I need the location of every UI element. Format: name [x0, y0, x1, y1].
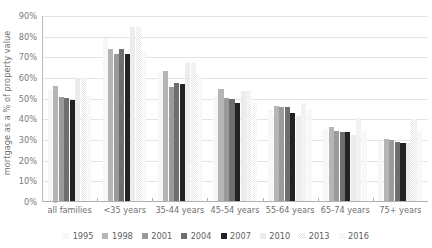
bar [191, 63, 196, 201]
legend-label: 2013 [309, 231, 330, 241]
y-axis-tick-label: 90% [19, 11, 37, 21]
y-axis-tick-label: 30% [19, 135, 37, 145]
bar [389, 140, 394, 201]
bar [384, 139, 389, 201]
legend-item[interactable]: 2007 [221, 231, 251, 241]
y-axis-tick-label: 10% [19, 176, 37, 186]
bar [406, 143, 411, 201]
bar [59, 97, 64, 201]
legend-swatch [142, 233, 148, 239]
bar [119, 49, 124, 201]
x-axis-tick-mark [318, 198, 319, 202]
bar-group [97, 16, 152, 201]
y-axis-tick-label: 70% [19, 52, 37, 62]
bar [125, 54, 130, 201]
legend-swatch [181, 233, 187, 239]
bar-group [207, 16, 262, 201]
legend-swatch [221, 233, 227, 239]
legend-item[interactable]: 1998 [102, 231, 132, 241]
y-axis-tick-label: 40% [19, 114, 37, 124]
legend-label: 1998 [112, 231, 133, 241]
bar-chart: mortgage as a % of property value 0%10%2… [0, 0, 432, 248]
legend-swatch [63, 233, 69, 239]
legend-item[interactable]: 2001 [142, 231, 172, 241]
bar [395, 142, 400, 201]
bar [246, 91, 251, 201]
bar [108, 49, 113, 201]
bar [114, 54, 119, 201]
bar [378, 141, 383, 201]
bar-group [263, 16, 318, 201]
bar [130, 27, 135, 201]
bar [48, 89, 53, 201]
y-axis-title: mortgage as a % of property value [0, 0, 14, 205]
bar [53, 86, 58, 201]
bar [224, 98, 229, 201]
plot-area [42, 16, 428, 202]
bar [163, 71, 168, 201]
bar [185, 63, 190, 201]
bar [180, 84, 185, 201]
x-axis-category-label: 55-64 years [266, 205, 315, 215]
bar [252, 102, 257, 201]
legend-label: 2001 [151, 231, 172, 241]
x-axis-tick-mark [97, 198, 98, 202]
legend-item[interactable]: 2016 [339, 231, 369, 241]
bar-group [152, 16, 207, 201]
bar [174, 83, 179, 201]
x-axis-tick-mark [373, 198, 374, 202]
x-axis-category-label: 65-74 years [321, 205, 370, 215]
x-axis-category-labels: all families<35 years35-44 years45-54 ye… [42, 203, 428, 219]
legend-item[interactable]: 2010 [260, 231, 290, 241]
legend-label: 2010 [269, 231, 290, 241]
legend-swatch [299, 233, 305, 239]
bar [75, 78, 80, 201]
bar [362, 131, 367, 201]
legend: 19951998200120042007201020132016 [0, 228, 432, 244]
bar [103, 38, 108, 201]
bar [64, 98, 69, 201]
legend-label: 2016 [348, 231, 369, 241]
bar [268, 110, 273, 201]
bar [196, 76, 201, 201]
y-axis-tick-label: 80% [19, 32, 37, 42]
bar [136, 27, 141, 201]
bar [70, 100, 75, 201]
legend-item[interactable]: 2004 [181, 231, 211, 241]
bar [351, 135, 356, 201]
bar [323, 129, 328, 201]
bar [86, 95, 91, 201]
bar [356, 118, 361, 201]
legend-swatch [260, 233, 266, 239]
y-axis-title-text: mortgage as a % of property value [2, 30, 12, 175]
y-axis-tick-label: 50% [19, 94, 37, 104]
x-axis-category-label: 75+ years [379, 205, 421, 215]
legend-item[interactable]: 1995 [63, 231, 93, 241]
bar [169, 87, 174, 201]
bar [417, 131, 422, 201]
bar [340, 132, 345, 201]
y-axis-tick-label: 20% [19, 156, 37, 166]
legend-label: 2004 [191, 231, 212, 241]
x-axis-category-label: <35 years [103, 205, 145, 215]
bar [345, 132, 350, 201]
legend-label: 2007 [230, 231, 251, 241]
legend-swatch [339, 233, 345, 239]
bar [279, 107, 284, 201]
bar-group [42, 16, 97, 201]
legend-swatch [102, 233, 108, 239]
y-axis-tick-label: 0% [24, 197, 37, 207]
bar [301, 103, 306, 201]
bar [334, 131, 339, 201]
bar [241, 91, 246, 201]
bar [81, 78, 86, 201]
bar [329, 127, 334, 201]
x-axis-tick-mark [152, 198, 153, 202]
bar [274, 106, 279, 201]
bar [218, 89, 223, 201]
x-axis-category-label: all families [47, 205, 91, 215]
bar-group [318, 16, 373, 201]
x-axis-category-label: 35-44 years [155, 205, 204, 215]
y-axis-tick-labels: 0%10%20%30%40%50%60%70%80%90% [14, 16, 40, 202]
legend-item[interactable]: 2013 [299, 231, 329, 241]
